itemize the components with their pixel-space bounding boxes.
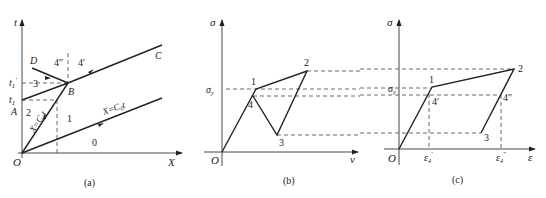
point-A: A — [10, 106, 18, 117]
point-2: 2 — [304, 57, 309, 68]
point-3: 3 — [279, 137, 284, 148]
eps4pp-label: ε4″ — [496, 150, 506, 164]
line-c0t-label: X=C0t — [100, 99, 127, 118]
point-4: 4 — [248, 99, 253, 110]
stress-strain-path — [399, 69, 514, 149]
origin-label: O — [13, 156, 21, 168]
t1p-label: t1′ — [9, 76, 17, 90]
region-0: 0 — [92, 137, 97, 148]
point-4pp: 4″ — [503, 92, 512, 103]
stress-v-path — [222, 71, 307, 152]
point-D: D — [29, 55, 38, 66]
line-A-B — [22, 83, 68, 100]
sigma-y-label: σy — [388, 83, 396, 95]
epsilon-axis-label: ε — [528, 151, 533, 163]
arrow-icon — [45, 76, 51, 80]
figure: t X O t1 t1′ A B C D 3 2 1 0 4″ 4′ X=C0t… — [0, 0, 546, 198]
region-2: 2 — [26, 107, 31, 118]
panel-c: σ ε O σy 1 2 3 4′ 4″ ε4′ ε4″ (c) — [360, 16, 535, 186]
caption-b: (b) — [283, 175, 295, 187]
region-4pp: 4″ — [54, 57, 63, 68]
arrow-icon — [98, 123, 104, 127]
panel-a: t X O t1 t1′ A B C D 3 2 1 0 4″ 4′ X=C0t… — [9, 16, 182, 189]
v-axis-label: v — [350, 153, 355, 165]
origin-label: O — [388, 152, 396, 164]
point-C: C — [155, 50, 162, 61]
point-1: 1 — [251, 76, 256, 87]
point-3: 3 — [484, 132, 489, 143]
point-2: 2 — [518, 63, 523, 74]
caption-c: (c) — [452, 174, 463, 186]
point-4p: 4′ — [432, 96, 439, 107]
point-B: B — [68, 86, 74, 97]
region-4p: 4′ — [78, 57, 85, 68]
origin-label: O — [211, 154, 219, 166]
region-1: 1 — [67, 113, 72, 124]
eps4p-label: ε4′ — [424, 150, 433, 164]
caption-a: (a) — [84, 177, 95, 189]
x-axis-label: X — [167, 156, 176, 168]
sigma-axis-label: σ — [210, 16, 216, 28]
region-3: 3 — [33, 78, 38, 89]
t-axis-label: t — [14, 16, 18, 28]
sigma-y-label: σy — [206, 84, 214, 96]
panel-b: σ v O σy 1 2 3 4 (b) — [204, 16, 360, 187]
sigma-axis-label: σ — [387, 16, 393, 28]
point-1: 1 — [429, 74, 434, 85]
